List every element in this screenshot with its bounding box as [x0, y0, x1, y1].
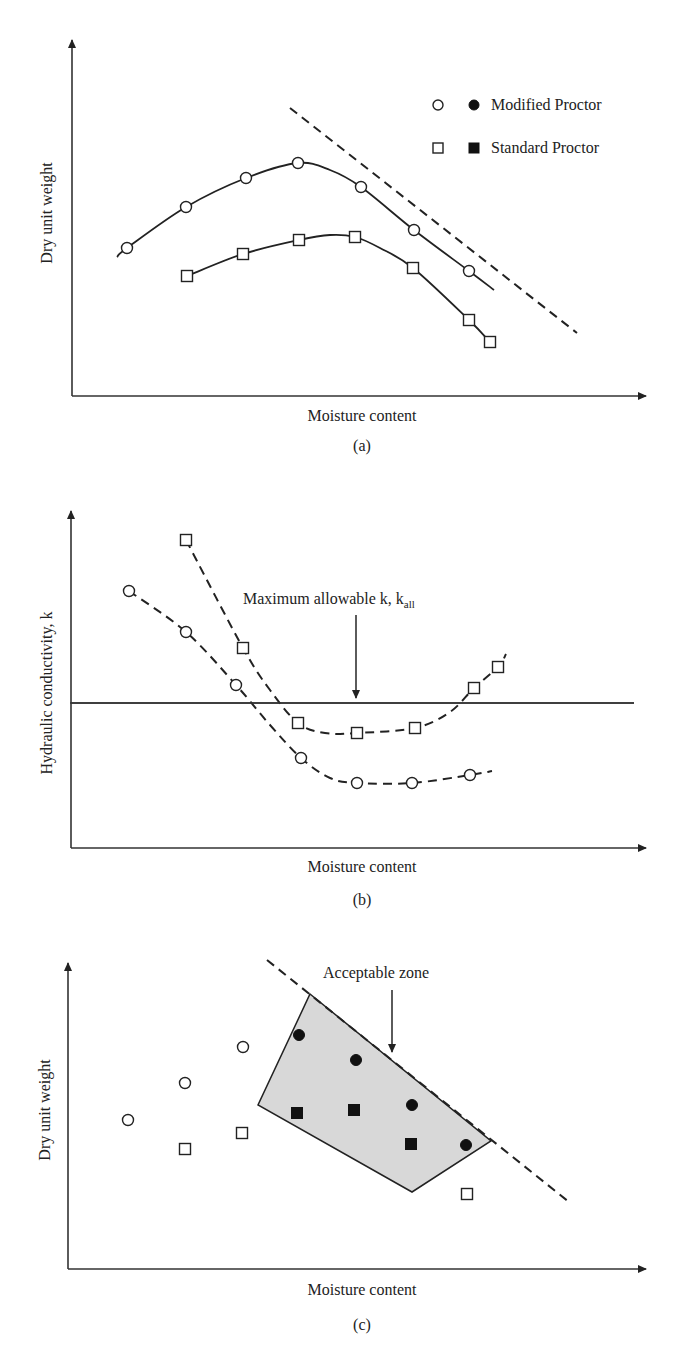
filled-square-marker-icon: [292, 1108, 303, 1119]
open-circle-marker-icon: [180, 1078, 191, 1089]
standard-proctor-line: [187, 235, 490, 342]
acceptable-zone: [258, 994, 491, 1192]
x-axis-label: Moisture content: [308, 1281, 417, 1298]
x-axis-label: Moisture content: [308, 858, 417, 875]
open-square-marker-icon: [180, 1144, 191, 1155]
panel-caption: (c): [353, 1316, 371, 1334]
open-circle-marker-icon: [296, 753, 307, 764]
panel-caption: (a): [353, 437, 371, 455]
open-square-marker-icon: [352, 728, 363, 739]
open-circle-marker-icon: [293, 158, 304, 169]
y-axis-label: Dry unit weight: [36, 1059, 54, 1161]
open-square-marker-icon: [293, 718, 304, 729]
panel-caption: (b): [353, 891, 372, 909]
open-circle-marker-icon: [241, 173, 252, 184]
open-square-marker-icon: [350, 232, 361, 243]
markers: [124, 535, 504, 789]
open-circle-marker-icon: [464, 266, 475, 277]
filled-circle-marker-icon: [461, 1140, 472, 1151]
legend: Modified Proctor Standard Proctor: [433, 96, 602, 156]
open-circle-marker-icon: [181, 627, 192, 638]
open-square-marker-icon: [485, 337, 496, 348]
legend-open-square-icon: [433, 143, 443, 153]
open-square-marker-icon: [238, 643, 249, 654]
open-square-marker-icon: [493, 662, 504, 673]
filled-circle-marker-icon: [294, 1030, 305, 1041]
modified-proctor-line: [117, 163, 494, 290]
annotation-label: Acceptable zone: [323, 964, 429, 982]
open-square-marker-icon: [410, 723, 421, 734]
open-square-marker-icon: [462, 1189, 473, 1200]
open-square-marker-icon: [469, 683, 480, 694]
legend-open-circle-icon: [433, 100, 443, 110]
open-circle-marker-icon: [465, 770, 476, 781]
open-circle-marker-icon: [407, 778, 418, 789]
open-circle-marker-icon: [238, 1042, 249, 1053]
open-square-marker-icon: [182, 271, 193, 282]
open-square-marker-icon: [294, 235, 305, 246]
open-square-marker-icon: [464, 315, 475, 326]
markers: [122, 158, 496, 348]
legend-filled-square-icon: [469, 143, 479, 153]
open-circle-marker-icon: [409, 225, 420, 236]
filled-circle-marker-icon: [407, 1100, 418, 1111]
open-square-marker-icon: [237, 1128, 248, 1139]
open-circle-marker-icon: [124, 586, 135, 597]
open-circle-marker-icon: [122, 243, 133, 254]
open-circle-marker-icon: [181, 202, 192, 213]
filled-square-marker-icon: [349, 1105, 360, 1116]
modified-proctor-line: [129, 591, 492, 784]
panel-c: Acceptable zone Moisture content (c) Dry…: [36, 960, 646, 1334]
x-axis-label: Moisture content: [308, 407, 417, 424]
curves: [70, 540, 634, 784]
panel-b: Maximum allowable k, kall Moisture conte…: [38, 511, 646, 909]
legend-filled-circle-icon: [469, 100, 479, 110]
open-circle-marker-icon: [352, 778, 363, 789]
y-axis-label: Hydraulic conductivity, k: [38, 612, 56, 775]
panel-a: Modified Proctor Standard Proctor Moistu…: [38, 40, 646, 455]
open-circle-marker-icon: [123, 1115, 134, 1126]
open-square-marker-icon: [238, 249, 249, 260]
standard-proctor-line: [186, 540, 506, 734]
open-circle-marker-icon: [231, 680, 242, 691]
y-axis-label: Dry unit weight: [38, 162, 56, 264]
legend-standard-label: Standard Proctor: [491, 139, 600, 156]
open-circle-marker-icon: [356, 182, 367, 193]
open-square-marker-icon: [408, 263, 419, 274]
open-square-marker-icon: [181, 535, 192, 546]
annotation-label: Maximum allowable k, kall: [243, 590, 415, 610]
figure: Modified Proctor Standard Proctor Moistu…: [0, 0, 679, 1367]
filled-square-marker-icon: [406, 1139, 417, 1150]
legend-modified-label: Modified Proctor: [491, 96, 602, 113]
filled-circle-marker-icon: [351, 1055, 362, 1066]
